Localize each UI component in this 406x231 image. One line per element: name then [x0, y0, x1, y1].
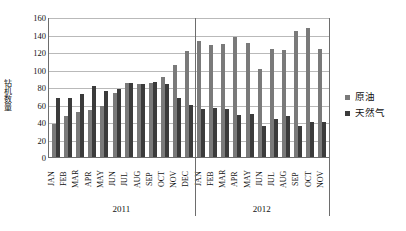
- x-axis-month-labels: JANFEBMARAPRMAYJUNJULAUGSEPOCTNOVDECJANF…: [48, 159, 329, 199]
- legend-swatch-gas-icon: [345, 111, 350, 116]
- bar-天然气-NOV-22: [322, 122, 326, 157]
- bar-group: [74, 18, 86, 157]
- bar-天然气-FEB-1: [68, 98, 72, 157]
- bar-group: [280, 18, 292, 157]
- bar-group: [207, 18, 219, 157]
- legend-label-gas: 天然气: [355, 108, 385, 118]
- bar-groups: [49, 18, 329, 157]
- y-axis-tick-labels: 020406080100120140160: [22, 18, 46, 158]
- x-tick-label-2: MAR: [72, 159, 84, 199]
- y-axis-title: 钻机数量: [1, 52, 13, 138]
- bar-天然气-OCT-9: [165, 84, 169, 158]
- bar-天然气-APR-3: [92, 86, 96, 157]
- plot-area: [48, 18, 329, 158]
- x-tick-label-16: MAY: [244, 159, 256, 199]
- x-tick-label-17: JUN: [256, 159, 268, 199]
- x-tick-label-21: OCT: [305, 159, 317, 199]
- bar-group: [268, 18, 280, 157]
- y-tick-20: 20: [24, 137, 46, 146]
- y-tick-80: 80: [24, 84, 46, 93]
- bar-group: [256, 18, 268, 157]
- bar-天然气-DEC-11: [189, 105, 193, 157]
- x-tick-label-13: FEB: [207, 159, 219, 199]
- bar-group: [159, 18, 171, 157]
- bar-group: [183, 18, 195, 157]
- bar-group: [98, 18, 110, 157]
- bar-天然气-MAR-14: [225, 109, 229, 157]
- year-label-2012: 2012: [195, 202, 329, 216]
- bar-天然气-JUL-6: [129, 83, 133, 157]
- bar-天然气-AUG-7: [141, 84, 145, 157]
- bar-group: [195, 18, 207, 157]
- bar-group: [171, 18, 183, 157]
- bar-group: [123, 18, 135, 157]
- legend-label-oil: 原油: [355, 92, 375, 102]
- bar-group: [292, 18, 304, 157]
- bar-天然气-MAY-16: [250, 114, 254, 157]
- bar-天然气-SEP-20: [298, 126, 302, 157]
- plot-area-wrapper: [48, 18, 329, 158]
- x-tick-label-12: JAN: [195, 159, 207, 199]
- bar-group: [244, 18, 256, 157]
- y-tick-60: 60: [24, 102, 46, 111]
- bar-天然气-AUG-19: [286, 116, 290, 157]
- bar-group: [110, 18, 122, 157]
- x-tick-label-20: SEP: [292, 159, 304, 199]
- y-tick-100: 100: [24, 67, 46, 76]
- x-tick-label-7: AUG: [134, 159, 146, 199]
- bar-天然气-JUN-5: [117, 89, 121, 157]
- y-tick-40: 40: [24, 119, 46, 128]
- bar-天然气-MAR-2: [80, 94, 84, 157]
- bar-group: [316, 18, 328, 157]
- bar-天然气-NOV-10: [177, 98, 181, 158]
- bar-天然气-FEB-13: [213, 108, 217, 157]
- bar-group: [231, 18, 243, 157]
- year-separator: [195, 18, 196, 216]
- bar-group: [135, 18, 147, 157]
- x-tick-label-22: NOV: [317, 159, 329, 199]
- bar-group: [62, 18, 74, 157]
- y-tick-160: 160: [24, 14, 46, 23]
- year-block-right-edge: [329, 18, 330, 216]
- x-tick-label-8: SEP: [146, 159, 158, 199]
- bar-天然气-JUN-17: [262, 126, 266, 158]
- bar-天然气-APR-15: [237, 115, 241, 157]
- legend-swatch-oil-icon: [345, 95, 350, 100]
- x-tick-label-15: APR: [231, 159, 243, 199]
- y-tick-140: 140: [24, 32, 46, 41]
- legend-item-gas: 天然气: [345, 108, 385, 118]
- bar-group: [304, 18, 316, 157]
- x-tick-label-3: APR: [85, 159, 97, 199]
- bar-天然气-JAN-0: [56, 98, 60, 158]
- chart-legend: 原油 天然气: [345, 92, 385, 118]
- bar-group: [86, 18, 98, 157]
- year-label-2011: 2011: [48, 202, 195, 216]
- y-tick-0: 0: [24, 154, 46, 163]
- bar-天然气-OCT-21: [310, 122, 314, 157]
- bar-group: [50, 18, 62, 157]
- bar-天然气-JAN-12: [201, 109, 205, 157]
- bar-天然气-SEP-8: [153, 82, 157, 157]
- x-tick-label-6: JUL: [121, 159, 133, 199]
- bar-group: [219, 18, 231, 157]
- x-axis-year-labels: 20112012: [48, 202, 329, 216]
- bar-天然气-JUL-18: [274, 119, 278, 158]
- x-tick-label-11: DEC: [182, 159, 194, 199]
- bar-天然气-MAY-4: [104, 91, 108, 157]
- legend-item-oil: 原油: [345, 92, 385, 102]
- y-tick-120: 120: [24, 49, 46, 58]
- rig-count-bar-chart: 钻机数量 020406080100120140160 JANFEBMARAPRM…: [0, 0, 406, 231]
- bar-group: [147, 18, 159, 157]
